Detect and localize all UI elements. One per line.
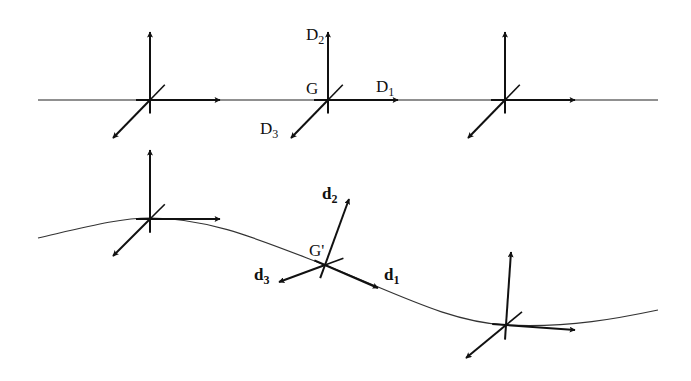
label-D1: D1: [376, 78, 394, 98]
director-3-stub: [328, 85, 343, 100]
director-2-stub: [505, 325, 506, 340]
label-G: G: [306, 80, 318, 97]
director-3-arrow: [113, 219, 150, 256]
label-D2: D2: [306, 26, 324, 46]
director-1-stub: [314, 260, 325, 265]
director-3-stub: [506, 312, 522, 325]
director-1-arrow: [325, 265, 378, 288]
director-3-arrow: [468, 100, 505, 138]
label-D3: D3: [260, 120, 278, 140]
label-G-prime: G': [309, 242, 324, 259]
director-1-stub: [492, 324, 506, 325]
label-d2: d2: [322, 185, 337, 205]
deformed-beam-curve: [38, 218, 658, 326]
director-2-arrow: [506, 252, 511, 325]
director-3-stub: [150, 204, 165, 219]
label-d3: d3: [254, 266, 269, 286]
director-3-stub: [150, 85, 165, 100]
director-3-arrow: [291, 100, 328, 138]
director-3-arrow: [113, 100, 150, 138]
label-d1: d1: [384, 266, 399, 286]
diagram-drawing: [0, 0, 691, 381]
beam-frames-diagram: D2 G D1 D3 d2 G' d1 d3: [0, 0, 691, 381]
director-2-arrow: [325, 199, 349, 265]
director-3-arrow: [466, 325, 506, 358]
director-3-stub: [505, 85, 520, 100]
director-3-arrow: [279, 265, 325, 282]
director-frames: [113, 32, 575, 358]
